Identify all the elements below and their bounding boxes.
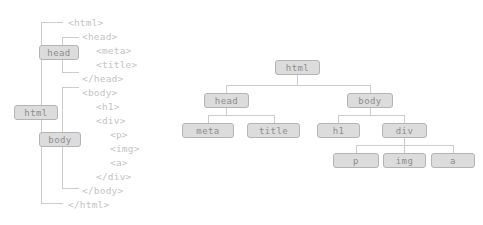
edge-body-div bbox=[404, 115, 405, 123]
markup-line: <p> bbox=[110, 129, 128, 140]
markup-line: </div> bbox=[96, 171, 132, 182]
scope-label-head[interactable]: head bbox=[39, 45, 79, 60]
tree-node-p[interactable]: p bbox=[333, 153, 379, 168]
bracket-html-bottom bbox=[41, 203, 63, 204]
markup-line: <a> bbox=[110, 157, 128, 168]
edge-div-a bbox=[453, 145, 454, 153]
tree-node-html[interactable]: html bbox=[275, 60, 320, 75]
edge-body-down bbox=[370, 108, 371, 115]
tree-node-img[interactable]: img bbox=[383, 153, 426, 168]
markup-line: <meta> bbox=[96, 45, 132, 56]
bracket-body-top bbox=[62, 87, 79, 88]
edge-html-down bbox=[297, 75, 298, 85]
edge-html-head bbox=[226, 85, 227, 93]
tree-node-title[interactable]: title bbox=[247, 123, 300, 138]
tree-node-body[interactable]: body bbox=[347, 93, 393, 108]
markup-line: <title> bbox=[96, 59, 137, 70]
markup-line: </html> bbox=[68, 199, 109, 210]
bracket-head-top bbox=[62, 37, 79, 38]
bracket-head-bottom bbox=[62, 72, 79, 73]
markup-line: </head> bbox=[82, 73, 123, 84]
scope-label-body[interactable]: body bbox=[39, 132, 81, 147]
edge-head-meta bbox=[208, 115, 209, 123]
scope-label-html[interactable]: html bbox=[14, 105, 58, 120]
dom-tree-diagram: html head body <html> <head> <meta> <tit… bbox=[0, 0, 483, 225]
bracket-body-bottom bbox=[62, 188, 79, 189]
markup-line: </body> bbox=[82, 185, 123, 196]
edge-html-bus bbox=[226, 85, 370, 86]
tree-node-h1[interactable]: h1 bbox=[317, 123, 360, 138]
markup-line: <img> bbox=[110, 143, 140, 154]
edge-head-title bbox=[274, 115, 275, 123]
tree-node-head[interactable]: head bbox=[204, 93, 249, 108]
tree-node-a[interactable]: a bbox=[431, 153, 475, 168]
markup-line: <div> bbox=[96, 115, 126, 126]
bracket-html-top bbox=[41, 22, 63, 23]
markup-line: <html> bbox=[68, 17, 104, 28]
edge-head-down bbox=[226, 108, 227, 115]
tree-node-meta[interactable]: meta bbox=[182, 123, 234, 138]
markup-line: <head> bbox=[82, 31, 118, 42]
tree-node-div[interactable]: div bbox=[382, 123, 427, 138]
edge-div-p bbox=[356, 145, 357, 153]
edge-body-bus bbox=[338, 115, 404, 116]
edge-div-img bbox=[404, 145, 405, 153]
markup-line: <h1> bbox=[96, 101, 120, 112]
edge-body-h1 bbox=[338, 115, 339, 123]
edge-head-bus bbox=[208, 115, 274, 116]
markup-line: <body> bbox=[82, 87, 118, 98]
edge-html-body bbox=[370, 85, 371, 93]
edge-div-down bbox=[404, 138, 405, 145]
